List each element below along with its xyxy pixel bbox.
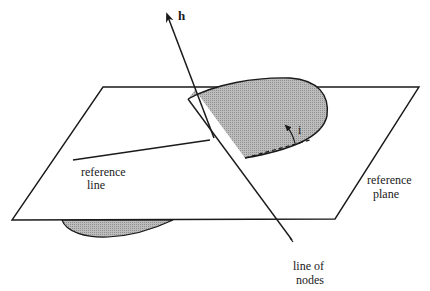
orbit-diagram — [0, 0, 430, 291]
reference-plane-label-1: reference — [367, 174, 412, 187]
line-of-nodes-label-2: nodes — [296, 274, 324, 287]
line-of-nodes-label-1: line of — [293, 260, 324, 273]
orbit-lower-half — [62, 220, 173, 237]
reference-plane-label-2: plane — [373, 188, 399, 201]
reference-line-label-2: line — [87, 179, 105, 192]
h-vector-label: h — [178, 9, 185, 22]
inclination-label: i — [298, 124, 301, 137]
